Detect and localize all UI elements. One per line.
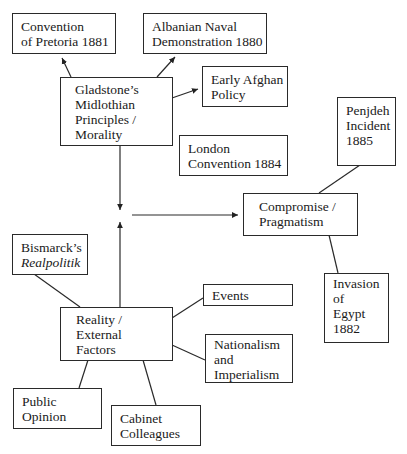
node-nationalism-imperialism: Nationalism and Imperialism <box>205 334 293 383</box>
node-events: Events <box>203 284 293 306</box>
edge-compromise-penjdeh <box>319 165 360 193</box>
node-text: London <box>188 141 287 156</box>
node-text: 1882 <box>333 321 388 336</box>
node-text: Principles / <box>75 112 172 127</box>
edge-reality-bismarck <box>34 274 80 307</box>
node-text: Convention <box>21 19 115 34</box>
node-text: Early Afghan <box>211 72 287 87</box>
node-text: Penjdeh <box>346 103 395 118</box>
node-early-afghan-policy: Early Afghan Policy <box>202 66 288 107</box>
node-penjdeh-incident: Penjdeh Incident 1885 <box>337 97 396 166</box>
node-text: Demonstration 1880 <box>152 34 266 49</box>
node-text: 1885 <box>346 133 395 148</box>
node-bismarck-realpolitik: Bismarck’s Realpolitik <box>12 234 88 275</box>
node-text: Opinion <box>22 409 101 424</box>
node-text: Events <box>212 288 292 303</box>
node-text: Realpolitik <box>21 255 87 270</box>
node-text: External <box>76 327 172 342</box>
node-text: Egypt <box>333 306 388 321</box>
node-invasion-of-egypt: Invasion of Egypt 1882 <box>324 273 389 343</box>
node-text: Midlothian <box>75 97 172 112</box>
node-text: Cabinet <box>120 411 200 426</box>
node-text: Imperialism <box>214 367 292 382</box>
node-text: Convention 1884 <box>188 156 287 171</box>
edge-reality-nationalism <box>172 345 205 360</box>
node-text: Incident <box>346 118 395 133</box>
node-text: Gladstone’s <box>75 82 172 97</box>
node-london-convention: London Convention 1884 <box>179 135 288 176</box>
node-text: of Pretoria 1881 <box>21 34 115 49</box>
edge-reality-cabinet <box>143 360 156 405</box>
node-compromise-pragmatism: Compromise / Pragmatism <box>243 193 358 236</box>
node-text: Reality / <box>76 312 172 327</box>
node-text: and <box>214 352 292 367</box>
edge-gladstone-pretoria <box>62 58 71 77</box>
edge-reality-events <box>172 298 203 318</box>
node-text: Invasion <box>333 276 388 291</box>
node-text: Nationalism <box>214 337 292 352</box>
node-text: Compromise / <box>259 199 357 214</box>
node-public-opinion: Public Opinion <box>13 388 102 429</box>
node-text: of <box>333 291 388 306</box>
edge-gladstone-albanian <box>157 57 175 77</box>
node-reality-external-factors: Reality / External Factors <box>60 307 173 361</box>
node-albanian-naval-demonstration: Albanian Naval Demonstration 1880 <box>143 13 267 54</box>
node-text: Pragmatism <box>259 214 357 229</box>
node-text: Morality <box>75 127 172 142</box>
node-text: Factors <box>76 342 172 357</box>
node-text: Bismarck’s <box>21 240 87 255</box>
node-text: Public <box>22 394 101 409</box>
node-gladstone-principles: Gladstone’s Midlothian Principles / Mora… <box>60 77 173 146</box>
node-convention-of-pretoria: Convention of Pretoria 1881 <box>12 13 116 54</box>
node-text: Colleagues <box>120 426 200 441</box>
edge-gladstone-afghan <box>172 89 198 98</box>
node-cabinet-colleagues: Cabinet Colleagues <box>111 405 201 446</box>
node-text: Policy <box>211 87 287 102</box>
edge-reality-public <box>79 360 88 388</box>
edge-compromise-egypt <box>329 235 338 273</box>
node-text: Albanian Naval <box>152 19 266 34</box>
